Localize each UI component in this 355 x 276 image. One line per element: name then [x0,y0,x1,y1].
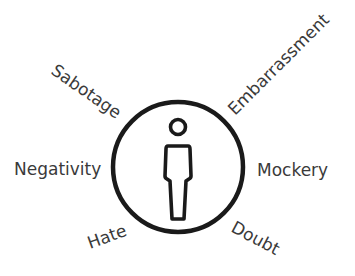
label-negativity: Negativity [14,159,101,179]
central-circle [113,102,243,232]
person-icon [165,120,191,220]
label-doubt: Doubt [228,217,283,259]
diagram-canvas: Sabotage Embarrassment Negativity Mocker… [0,0,355,276]
label-embarrassment: Embarrassment [224,9,334,119]
label-hate: Hate [85,220,130,253]
label-sabotage: Sabotage [48,60,126,123]
person-body [165,146,191,219]
label-mockery: Mockery [257,160,328,180]
person-head [171,120,186,135]
